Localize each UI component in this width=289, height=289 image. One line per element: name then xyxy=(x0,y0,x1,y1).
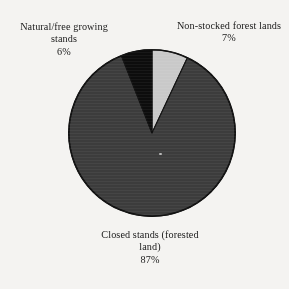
pie-slice-group: Non-stocked forest lands 7%Closed stands… xyxy=(69,50,235,216)
pie-graphic: Non-stocked forest lands 7%Closed stands… xyxy=(68,49,236,217)
slice-label-line: Natural/free growing xyxy=(2,21,126,33)
slice-label-line: land) xyxy=(80,241,220,253)
slice-label-line: Closed stands (forested xyxy=(80,229,220,241)
slice-label-line: stands xyxy=(2,33,126,45)
slice-label-line: Non-stocked forest lands xyxy=(168,20,289,32)
slice-value-non-stocked-forest-lands: 7% xyxy=(168,32,289,44)
pie-chart-figure: Natural/free growing stands 6% Non-stock… xyxy=(0,0,289,289)
slice-label-closed-stands: Closed stands (forested land) 87% xyxy=(80,229,220,266)
slice-value-closed-stands: 87% xyxy=(80,254,220,266)
scan-artifact-speck xyxy=(159,153,162,155)
slice-label-non-stocked-forest-lands: Non-stocked forest lands 7% xyxy=(168,20,289,45)
pie-svg: Non-stocked forest lands 7%Closed stands… xyxy=(68,49,236,217)
